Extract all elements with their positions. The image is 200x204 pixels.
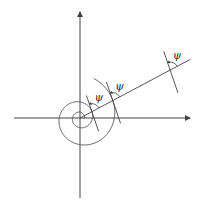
spiral-diagram: ψψψ <box>0 0 200 204</box>
log-spiral-curve <box>59 78 115 145</box>
radial-ray <box>80 59 190 118</box>
angle-label-psi: ψ <box>173 49 182 62</box>
angle-label-psi: ψ <box>115 80 124 93</box>
angle-label-psi: ψ <box>94 91 103 104</box>
